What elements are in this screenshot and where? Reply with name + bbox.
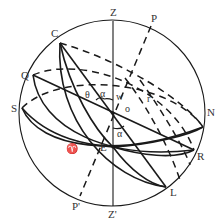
label-south-pole: P' <box>72 200 80 212</box>
label-alpha-lower: α <box>117 128 123 139</box>
label-center: o <box>125 103 130 114</box>
label-nadir: Z' <box>108 208 117 220</box>
celestial-sphere-diagram: Z P C Q S N R L P' Z' θ α w r o α E ♈ <box>0 0 222 222</box>
label-r: R <box>197 150 205 162</box>
label-c: C <box>51 27 58 39</box>
label-q: Q <box>21 69 29 81</box>
center-point <box>111 111 114 114</box>
label-zenith: Z <box>110 6 117 18</box>
label-south-point: S <box>11 102 17 114</box>
label-alpha-upper: α <box>100 88 106 99</box>
label-w: w <box>116 91 124 102</box>
vernal-equinox-icon: ♈ <box>66 142 78 155</box>
label-theta: θ <box>85 89 90 100</box>
label-l: L <box>170 186 177 198</box>
label-north-point: N <box>207 106 215 118</box>
alpha-angle-arc-upper <box>104 99 113 100</box>
label-north-pole: P <box>151 12 157 24</box>
label-e: E <box>100 141 107 153</box>
point-e <box>111 145 114 148</box>
polar-axis <box>80 26 151 196</box>
